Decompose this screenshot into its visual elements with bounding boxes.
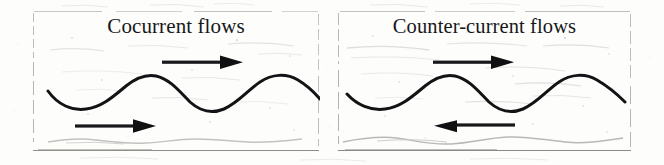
scan-speckles: [71, 33, 294, 136]
panel-diagram-cocurrent: [32, 10, 320, 152]
panel-diagram-counter-current: [337, 10, 632, 152]
panel-counter-current-flows: Counter-current flows: [337, 10, 632, 152]
flow-regimes-figure: Cocurrent flows: [0, 0, 664, 165]
panel-cocurrent-flows: Cocurrent flows: [32, 10, 320, 152]
interface-wave: [48, 75, 320, 111]
interface-wave: [347, 75, 625, 111]
lower-flow-arrow-right: [75, 119, 156, 133]
scan-smudges: [347, 43, 609, 104]
lower-flow-arrow-left: [434, 120, 515, 132]
upper-flow-arrow-right: [162, 56, 243, 70]
scan-smudges: [50, 43, 302, 104]
